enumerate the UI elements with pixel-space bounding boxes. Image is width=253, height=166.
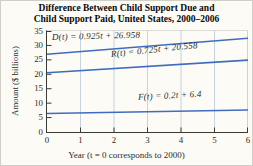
chart-title: Difference Between Child Support Due and… bbox=[1, 3, 252, 25]
x-tick-label: 6 bbox=[241, 136, 253, 145]
y-tick-label: 10 bbox=[17, 99, 43, 108]
x-tick-label: 2 bbox=[107, 136, 121, 145]
x-tick-label: 1 bbox=[74, 136, 88, 145]
x-tick-label: 0 bbox=[40, 136, 54, 145]
y-tick-label: 15 bbox=[17, 84, 43, 93]
x-tick-label: 4 bbox=[174, 136, 188, 145]
x-axis-label: Year (t = 0 corresponds to 2000) bbox=[1, 150, 252, 160]
y-tick-label: 25 bbox=[17, 55, 43, 64]
child-support-chart: Difference Between Child Support Due and… bbox=[0, 0, 253, 166]
y-tick-label: 35 bbox=[17, 27, 43, 36]
chart-title-line2: Child Support Paid, United States, 2000–… bbox=[1, 14, 252, 25]
y-tick-label: 30 bbox=[17, 41, 43, 50]
y-tick-label: 5 bbox=[17, 113, 43, 122]
plot-area: D(t) = 0.925t + 26.958 R(t) = 0.725t + 2… bbox=[46, 30, 248, 133]
y-tick-label: 20 bbox=[17, 70, 43, 79]
chart-title-line1: Difference Between Child Support Due and bbox=[1, 3, 252, 14]
x-tick-label: 5 bbox=[208, 136, 222, 145]
x-tick-label: 3 bbox=[141, 136, 155, 145]
